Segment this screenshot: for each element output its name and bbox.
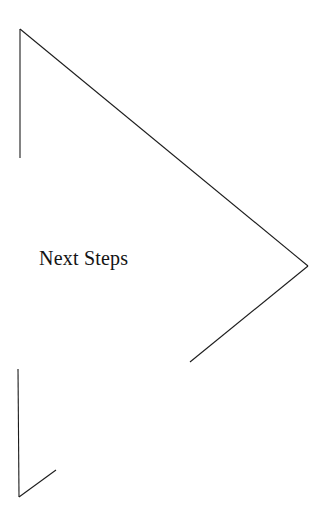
slide-canvas: Next Steps bbox=[0, 0, 327, 522]
bottom-left-vertical-stroke bbox=[18, 369, 19, 497]
page-title: Next Steps bbox=[39, 246, 128, 270]
bottom-left-diagonal-stroke bbox=[19, 470, 56, 497]
chevron-lower-diagonal-stroke bbox=[190, 266, 308, 362]
top-long-diagonal-stroke bbox=[20, 29, 308, 266]
